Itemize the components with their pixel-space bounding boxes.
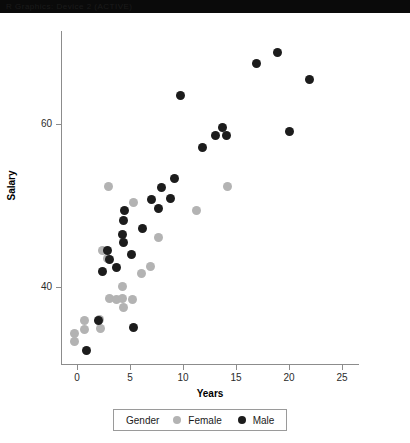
- x-tick-mark: [183, 365, 184, 370]
- scatter-plot-figure: Years Salary 0510152025 4060 Gender Fema…: [0, 13, 410, 443]
- legend-swatch-male-icon: [238, 416, 246, 424]
- x-tick-label: 10: [168, 372, 198, 384]
- data-point-male: [98, 267, 107, 276]
- legend: Gender FemaleMale: [113, 409, 287, 431]
- data-point-female: [129, 198, 138, 207]
- x-tick-mark: [130, 365, 131, 370]
- data-point-male: [170, 174, 179, 183]
- plot-area: [61, 31, 358, 364]
- x-tick-label: 5: [115, 372, 145, 384]
- x-tick-label: 0: [62, 372, 92, 384]
- legend-title: Gender: [126, 415, 159, 426]
- legend-swatch-female-icon: [173, 416, 181, 424]
- data-point-male: [147, 195, 156, 204]
- data-point-male: [273, 48, 282, 57]
- data-point-male: [285, 127, 294, 136]
- data-point-female: [118, 282, 127, 291]
- x-tick-mark: [77, 365, 78, 370]
- window-titlebar: R Graphics: Device 2 (ACTIVE): [0, 0, 410, 13]
- data-point-female: [128, 295, 137, 304]
- data-point-male: [176, 91, 185, 100]
- data-point-male: [127, 250, 136, 259]
- legend-entries: FemaleMale: [173, 415, 274, 426]
- data-point-male: [138, 224, 147, 233]
- data-point-male: [211, 131, 220, 140]
- data-point-female: [119, 303, 128, 312]
- x-axis-line: [61, 364, 359, 365]
- data-point-female: [96, 324, 105, 333]
- x-tick-label: 25: [327, 372, 357, 384]
- x-tick-label: 20: [274, 372, 304, 384]
- data-point-male: [198, 143, 207, 152]
- data-point-male: [252, 59, 261, 68]
- data-point-female: [137, 269, 146, 278]
- data-point-female: [154, 233, 163, 242]
- data-point-female: [80, 316, 89, 325]
- y-tick-label: 40: [18, 281, 52, 293]
- legend-entry-female[interactable]: Female: [173, 415, 221, 426]
- data-point-male: [129, 323, 138, 332]
- x-tick-mark: [289, 365, 290, 370]
- legend-label: Male: [253, 415, 275, 426]
- data-point-male: [305, 75, 314, 84]
- data-point-male: [157, 183, 166, 192]
- data-point-male: [103, 246, 112, 255]
- y-tick-label: 60: [18, 118, 52, 130]
- data-point-female: [146, 262, 155, 271]
- data-point-female: [223, 182, 232, 191]
- data-point-male: [112, 263, 121, 272]
- data-point-male: [119, 238, 128, 247]
- data-point-female: [192, 206, 201, 215]
- legend-label: Female: [188, 415, 221, 426]
- data-point-female: [104, 182, 113, 191]
- data-point-male: [222, 131, 231, 140]
- data-point-male: [166, 194, 175, 203]
- x-tick-mark: [236, 365, 237, 370]
- data-point-male: [154, 204, 163, 213]
- x-tick-label: 15: [221, 372, 251, 384]
- data-point-male: [105, 255, 114, 264]
- data-point-male: [82, 346, 91, 355]
- data-point-female: [70, 337, 79, 346]
- window-title: R Graphics: Device 2 (ACTIVE): [6, 1, 133, 12]
- legend-entry-male[interactable]: Male: [238, 415, 275, 426]
- x-axis-label: Years: [61, 388, 359, 399]
- y-axis-label: Salary: [6, 136, 17, 236]
- x-tick-mark: [342, 365, 343, 370]
- data-point-male: [119, 216, 128, 225]
- data-point-male: [94, 316, 103, 325]
- data-point-female: [118, 294, 127, 303]
- data-point-male: [120, 206, 129, 215]
- data-point-female: [80, 325, 89, 334]
